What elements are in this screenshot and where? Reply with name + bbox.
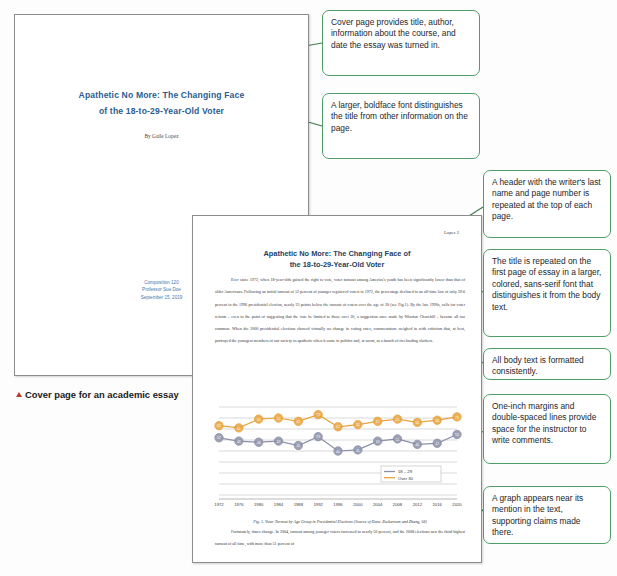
- svg-text:45: 45: [296, 444, 300, 448]
- essay-page: Lopez 2 Apathetic No More: The Changing …: [192, 215, 482, 563]
- callout-text: The title is repeated on the first page …: [492, 256, 601, 312]
- callout-graph: A graph appears near its mention in the …: [483, 486, 611, 544]
- svg-text:66: 66: [415, 421, 419, 425]
- figure-label: Cover page for an academic essay: [16, 389, 186, 401]
- essay-page-title: Apathetic No More: The Changing Face of …: [217, 249, 457, 270]
- body-paragraph-2: Fortunately, times change. In 2004, turn…: [215, 526, 465, 551]
- cover-title-line-1: Apathetic No More: The Changing Face: [15, 87, 308, 103]
- svg-text:2004: 2004: [373, 502, 383, 507]
- svg-text:64: 64: [356, 423, 360, 427]
- svg-text:46: 46: [415, 443, 419, 447]
- svg-text:2012: 2012: [413, 502, 423, 507]
- chart-x-axis: 1972197619801984198819921996200020042008…: [214, 499, 462, 507]
- svg-text:68: 68: [435, 419, 439, 423]
- svg-text:51: 51: [396, 438, 400, 442]
- cover-author: By Gaile Lopez: [15, 133, 308, 139]
- running-header: Lopez 2: [444, 230, 459, 235]
- callout-margins: One-inch margins and double-spaced lines…: [483, 394, 611, 464]
- svg-text:1972: 1972: [214, 502, 224, 507]
- body-paragraph-1: Ever since 1972, when 18-year-olds gaine…: [215, 274, 465, 348]
- triangle-up-icon: [16, 392, 22, 397]
- callout-text: Cover page provides title, author, infor…: [331, 17, 456, 50]
- essay-title-line-2: the 18-to-29-Year-Old Voter: [217, 260, 457, 271]
- svg-text:2016: 2016: [433, 502, 443, 507]
- svg-text:47: 47: [435, 442, 439, 446]
- svg-text:69: 69: [396, 418, 400, 422]
- svg-text:48: 48: [257, 441, 261, 445]
- svg-text:1976: 1976: [234, 502, 244, 507]
- svg-text:73: 73: [316, 413, 320, 417]
- svg-text:Over 30: Over 30: [398, 476, 414, 481]
- svg-text:40: 40: [336, 450, 340, 454]
- svg-text:41: 41: [356, 449, 360, 453]
- svg-text:1996: 1996: [333, 502, 343, 507]
- svg-text:18 – 29: 18 – 29: [398, 469, 413, 474]
- cover-page-title: Apathetic No More: The Changing Face of …: [15, 87, 308, 119]
- callout-body-format: All body text is formatted consistently.: [483, 348, 611, 380]
- svg-text:62: 62: [336, 425, 340, 429]
- svg-text:1984: 1984: [274, 502, 284, 507]
- svg-text:70: 70: [277, 417, 281, 421]
- svg-text:49: 49: [237, 440, 241, 444]
- svg-text:1980: 1980: [254, 502, 264, 507]
- cover-title-line-2: of the 18-to-29-Year-Old Voter: [15, 103, 308, 119]
- callout-header: A header with the writer's last name and…: [483, 170, 611, 238]
- svg-text:2000: 2000: [353, 502, 363, 507]
- svg-text:1988: 1988: [294, 502, 304, 507]
- svg-text:69: 69: [257, 418, 261, 422]
- essay-title-line-1: Apathetic No More: The Changing Face of: [217, 249, 457, 260]
- screenshot-root: Apathetic No More: The Changing Face of …: [0, 0, 617, 576]
- callout-text: One-inch margins and double-spaced lines…: [492, 401, 596, 445]
- svg-text:49: 49: [376, 440, 380, 444]
- svg-text:49: 49: [277, 440, 281, 444]
- callout-text: A header with the writer's last name and…: [492, 177, 601, 221]
- svg-text:67: 67: [296, 420, 300, 424]
- callout-text: All body text is formatted consistently.: [492, 355, 584, 376]
- svg-text:55: 55: [455, 433, 459, 437]
- chart-legend: 18 – 29Over 30: [381, 466, 441, 482]
- svg-text:67: 67: [376, 420, 380, 424]
- voter-turnout-chart: 5249484945534041495146475563616970677362…: [213, 403, 463, 513]
- svg-text:2008: 2008: [393, 502, 403, 507]
- chart-svg: 5249484945534041495146475563616970677362…: [213, 403, 463, 513]
- callout-title-font: A larger, boldface font distinguishes th…: [322, 93, 480, 159]
- callout-cover-purpose: Cover page provides title, author, infor…: [322, 10, 480, 76]
- svg-text:71: 71: [455, 416, 459, 420]
- svg-text:61: 61: [237, 427, 241, 431]
- svg-text:53: 53: [316, 435, 320, 439]
- callout-title-repeat: The title is repeated on the first page …: [483, 249, 611, 337]
- svg-text:63: 63: [217, 424, 221, 428]
- figure-caption: Fig. 1. Voter Turnout by Age Group in Pr…: [215, 519, 465, 524]
- callout-text: A larger, boldface font distinguishes th…: [331, 100, 468, 133]
- svg-text:1992: 1992: [314, 502, 324, 507]
- svg-text:52: 52: [217, 436, 221, 440]
- callout-text: A graph appears near its mention in the …: [492, 493, 583, 537]
- svg-text:2020: 2020: [452, 502, 462, 507]
- figure-label-text: Cover page for an academic essay: [25, 389, 179, 400]
- chart-series-layer: 5249484945534041495146475563616970677362…: [215, 411, 461, 456]
